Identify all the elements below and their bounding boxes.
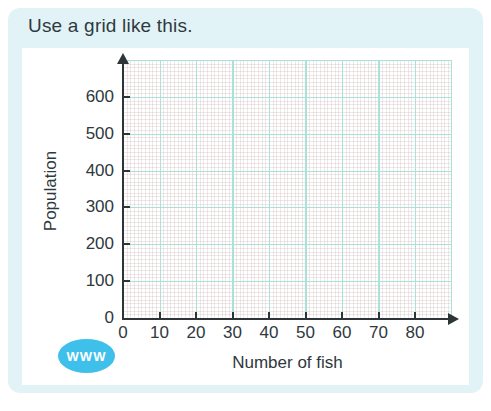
y-tick-mark: [124, 280, 130, 282]
x-tick-label: 40: [251, 323, 287, 343]
x-tick-label: 0: [105, 323, 141, 343]
x-tick-mark: [414, 312, 416, 318]
grid-card: Use a grid like this. Population Number …: [8, 8, 483, 393]
y-tick-mark: [124, 206, 130, 208]
y-tick-label: 300: [62, 197, 114, 217]
x-tick-label: 20: [178, 323, 214, 343]
x-tick-mark: [268, 312, 270, 318]
www-badge: WWW: [58, 339, 115, 373]
chart-panel: Population Number of fish WWW 0100200300…: [22, 48, 469, 385]
x-tick-label: 80: [397, 323, 433, 343]
page-title: Use a grid like this.: [28, 15, 193, 37]
y-tick-label: 100: [62, 271, 114, 291]
x-tick-label: 30: [215, 323, 251, 343]
y-axis-arrow-icon: [117, 53, 129, 64]
y-tick-label: 600: [62, 87, 114, 107]
y-tick-mark: [124, 170, 130, 172]
y-axis-title: Population: [41, 131, 61, 251]
plot-grid-area: [123, 60, 452, 319]
x-tick-label: 50: [288, 323, 324, 343]
x-axis-arrow-icon: [448, 313, 459, 325]
x-tick-mark: [341, 312, 343, 318]
x-axis-line: [122, 318, 450, 320]
x-tick-mark: [195, 312, 197, 318]
y-tick-mark: [124, 243, 130, 245]
y-tick-label: 400: [62, 161, 114, 181]
y-tick-label: 500: [62, 124, 114, 144]
y-tick-label: 200: [62, 234, 114, 254]
x-tick-mark: [305, 312, 307, 318]
x-tick-mark: [232, 312, 234, 318]
x-tick-label: 10: [142, 323, 178, 343]
y-tick-mark: [124, 96, 130, 98]
x-tick-mark: [378, 312, 380, 318]
x-tick-label: 60: [324, 323, 360, 343]
x-tick-label: 70: [361, 323, 397, 343]
x-tick-mark: [159, 312, 161, 318]
y-tick-mark: [124, 133, 130, 135]
x-axis-title: Number of fish: [123, 353, 452, 373]
